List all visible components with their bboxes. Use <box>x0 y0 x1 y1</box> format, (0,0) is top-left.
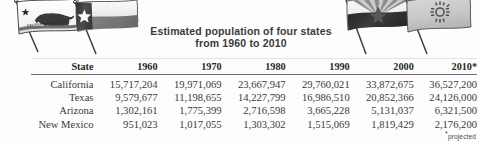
cell-pop-1990: 1,515,069 <box>286 118 350 131</box>
cell-pop-2000: 5,131,037 <box>350 104 414 117</box>
cell-pop-1960: 951,023 <box>93 118 157 131</box>
cell-pop-1970: 19,971,069 <box>158 75 222 92</box>
population-table-figure: CALIFORNIA REPUBLIC <box>0 0 482 144</box>
cell-pop-1970: 1,775,399 <box>158 104 222 117</box>
figure-title: Estimated population of four states from… <box>0 25 482 49</box>
cell-pop-1980: 14,227,799 <box>222 91 286 104</box>
column-header-state: State <box>31 59 93 75</box>
footnote-text: projected <box>448 133 476 140</box>
cell-pop-1960: 15,717,204 <box>93 75 157 92</box>
column-header-2000: 2000 <box>350 59 414 75</box>
column-header-1990: 1990 <box>286 59 350 75</box>
cell-state: Arizona <box>31 104 93 117</box>
cell-pop-1980: 23,667,947 <box>222 75 286 92</box>
population-table: State 1960 1970 1980 1990 2000 2010* Cal… <box>31 58 477 131</box>
cell-pop-1990: 3,665,228 <box>286 104 350 117</box>
cell-pop-1970: 11,198,655 <box>158 91 222 104</box>
table-row: Texas 9,579,677 11,198,655 14,227,799 16… <box>31 91 477 104</box>
cell-pop-1980: 1,303,302 <box>222 118 286 131</box>
cell-pop-1990: 29,760,021 <box>286 75 350 92</box>
footnote: *projected <box>445 129 476 140</box>
column-header-2010: 2010* <box>414 59 477 75</box>
column-header-1960: 1960 <box>93 59 157 75</box>
cell-pop-2000: 1,819,429 <box>350 118 414 131</box>
cell-pop-2000: 20,852,366 <box>350 91 414 104</box>
cell-pop-1970: 1,017,055 <box>158 118 222 131</box>
table-header-row: State 1960 1970 1980 1990 2000 2010* <box>31 59 477 75</box>
population-table-wrapper: State 1960 1970 1980 1990 2000 2010* Cal… <box>31 58 477 131</box>
cell-pop-1960: 9,579,677 <box>93 91 157 104</box>
cell-pop-2010: 24,126,000 <box>414 91 477 104</box>
cell-pop-2000: 33,872,675 <box>350 75 414 92</box>
cell-state: California <box>31 75 93 92</box>
cell-state: Texas <box>31 91 93 104</box>
table-row: New Mexico 951,023 1,017,055 1,303,302 1… <box>31 118 477 131</box>
cell-state: New Mexico <box>31 118 93 131</box>
column-header-1980: 1980 <box>222 59 286 75</box>
cell-pop-2010: 6,321,500 <box>414 104 477 117</box>
cell-pop-1980: 2,716,598 <box>222 104 286 117</box>
table-body: California 15,717,204 19,971,069 23,667,… <box>31 75 477 131</box>
figure-title-line-2: from 1960 to 2010 <box>0 37 482 49</box>
table-row: California 15,717,204 19,971,069 23,667,… <box>31 75 477 92</box>
cell-pop-1990: 16,986,510 <box>286 91 350 104</box>
cell-pop-2010: 36,527,200 <box>414 75 477 92</box>
figure-title-line-1: Estimated population of four states <box>0 25 482 37</box>
table-header: State 1960 1970 1980 1990 2000 2010* <box>31 59 477 75</box>
cell-pop-1960: 1,302,161 <box>93 104 157 117</box>
column-header-1970: 1970 <box>158 59 222 75</box>
table-row: Arizona 1,302,161 1,775,399 2,716,598 3,… <box>31 104 477 117</box>
